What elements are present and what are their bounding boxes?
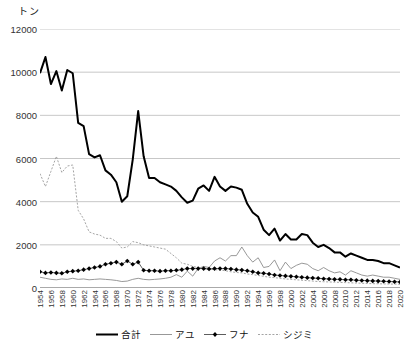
series-marker-フナ (174, 268, 179, 273)
legend-key-icon (258, 330, 280, 339)
legend-label: シジミ (283, 330, 313, 340)
x-axis: 1954195619581960196219641966196819701972… (40, 290, 400, 330)
series-marker-フナ (98, 264, 103, 269)
series-marker-フナ (125, 259, 130, 264)
series-marker-フナ (321, 276, 326, 281)
series-marker-フナ (152, 268, 157, 273)
legend-item-合計[interactable]: 合計 (96, 330, 141, 340)
series-marker-フナ (300, 275, 305, 280)
x-axis-tick-label: 1976 (156, 290, 165, 308)
series-marker-フナ (250, 270, 255, 275)
series-marker-フナ (43, 271, 48, 276)
series-marker-フナ (163, 268, 168, 273)
series-marker-フナ (240, 268, 245, 273)
plot-area (40, 29, 400, 288)
x-axis-tick-label: 2012 (352, 290, 361, 308)
x-axis-tick-label: 1956 (47, 290, 56, 308)
x-axis-tick-label: 1960 (69, 290, 78, 308)
series-marker-フナ (338, 277, 343, 282)
series-marker-フナ (387, 279, 392, 284)
x-axis-tick-label: 1968 (112, 290, 121, 308)
x-axis-tick-label: 1978 (167, 290, 176, 308)
series-marker-フナ (310, 276, 315, 281)
y-axis-tick-label: 4000 (16, 196, 37, 207)
series-marker-フナ (354, 278, 359, 283)
x-axis-tick-label: 2004 (309, 290, 318, 308)
series-marker-フナ (65, 270, 70, 275)
series-marker-フナ (40, 270, 42, 275)
series-marker-フナ (180, 267, 185, 272)
series-marker-フナ (76, 268, 81, 273)
legend-label: フナ (229, 330, 249, 340)
x-axis-tick-label: 1970 (123, 290, 132, 308)
y-axis: 020004000600080001000012000 (0, 0, 37, 320)
series-marker-フナ (294, 274, 299, 279)
series-marker-フナ (158, 269, 163, 274)
x-axis-tick-label: 1990 (232, 290, 241, 308)
series-marker-フナ (349, 277, 354, 282)
y-axis-tick-label: 12000 (11, 24, 37, 35)
x-axis-tick-label: 1964 (91, 290, 100, 308)
series-marker-フナ (87, 266, 92, 271)
series-marker-フナ (92, 265, 97, 270)
x-axis-tick-label: 1980 (178, 290, 187, 308)
series-marker-フナ (360, 278, 365, 283)
x-axis-tick-label: 2018 (385, 290, 394, 308)
x-axis-tick-label: 1988 (221, 290, 230, 308)
series-marker-フナ (267, 272, 272, 277)
x-axis-tick-label: 2014 (363, 290, 372, 308)
legend-item-フナ[interactable]: フナ (204, 330, 249, 340)
series-marker-フナ (370, 279, 375, 284)
series-marker-フナ (218, 266, 223, 271)
x-axis-tick-label: 1958 (58, 290, 67, 308)
plot-svg (40, 29, 400, 288)
legend-label: アユ (175, 330, 195, 340)
series-marker-フナ (381, 279, 386, 284)
legend-label: 合計 (121, 330, 141, 340)
series-marker-フナ (327, 277, 332, 282)
x-axis-tick-label: 1986 (211, 290, 220, 308)
x-axis-tick-label: 1992 (243, 290, 252, 308)
series-marker-フナ (185, 266, 190, 271)
x-axis-tick-label: 1994 (254, 290, 263, 308)
series-marker-フナ (120, 262, 125, 267)
series-marker-フナ (147, 268, 152, 273)
line-chart: トン 020004000600080001000012000 195419561… (0, 0, 408, 349)
legend-item-アユ[interactable]: アユ (150, 330, 195, 340)
series-marker-フナ (81, 267, 86, 272)
x-axis-tick-label: 1972 (134, 290, 143, 308)
x-axis-tick-label: 2002 (298, 290, 307, 308)
legend-item-シジミ[interactable]: シジミ (258, 330, 313, 340)
x-axis-tick-label: 2010 (341, 290, 350, 308)
x-axis-tick-label: 1954 (36, 290, 45, 308)
x-axis-tick-label: 2016 (374, 290, 383, 308)
series-line-アユ (40, 247, 400, 282)
y-axis-tick-label: 6000 (16, 153, 37, 164)
series-line-シジミ (40, 156, 400, 284)
series-marker-フナ (316, 276, 321, 281)
x-axis-tick-label: 2006 (320, 290, 329, 308)
y-axis-tick-label: 8000 (16, 110, 37, 121)
series-line-合計 (40, 57, 400, 267)
series-marker-フナ (343, 277, 348, 282)
series-marker-フナ (169, 268, 174, 273)
x-axis-tick-label: 1998 (276, 290, 285, 308)
series-marker-フナ (234, 267, 239, 272)
legend-key-icon (96, 330, 118, 339)
x-axis-tick-label: 1996 (265, 290, 274, 308)
x-axis-tick-label: 1966 (101, 290, 110, 308)
x-axis-tick-label: 1984 (200, 290, 209, 308)
x-axis-tick-label: 2008 (331, 290, 340, 308)
series-marker-フナ (392, 279, 397, 284)
x-axis-tick-label: 2020 (396, 290, 405, 308)
series-marker-フナ (60, 271, 65, 276)
series-marker-フナ (136, 260, 141, 265)
series-marker-フナ (365, 278, 370, 283)
series-marker-フナ (229, 267, 234, 272)
series-marker-フナ (332, 277, 337, 282)
series-marker-フナ (261, 271, 266, 276)
legend: 合計アユフナシジミ (0, 330, 408, 340)
series-marker-フナ (289, 274, 294, 279)
series-marker-フナ (278, 273, 283, 278)
x-axis-tick-label: 1962 (80, 290, 89, 308)
